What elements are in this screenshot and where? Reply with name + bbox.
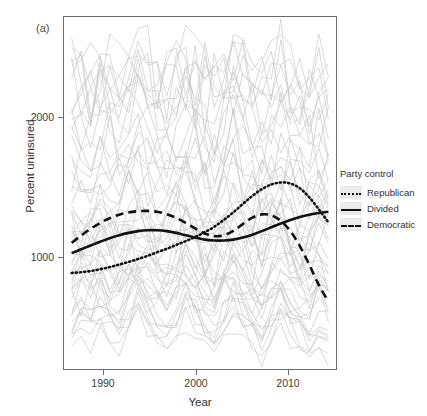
plot-area bbox=[63, 16, 337, 370]
legend-item-divided[interactable]: Divided bbox=[340, 201, 427, 216]
legend-label-democratic: Democratic bbox=[367, 219, 415, 230]
legend-item-republican[interactable]: Republican bbox=[340, 185, 427, 200]
legend-key-republican bbox=[340, 186, 362, 199]
xtick-label-2010: 2010 bbox=[258, 377, 318, 389]
panel-label: (a) bbox=[36, 22, 49, 34]
background-series-line bbox=[72, 19, 329, 120]
legend: Party control Republican Divided Democra… bbox=[340, 168, 427, 233]
xtick-mark-2000 bbox=[196, 370, 197, 375]
plot-canvas bbox=[64, 17, 336, 369]
legend-item-democratic[interactable]: Democratic bbox=[340, 217, 427, 232]
background-series-line bbox=[72, 276, 329, 341]
xtick-label-2000: 2000 bbox=[166, 377, 226, 389]
xtick-label-1990: 1990 bbox=[73, 377, 133, 389]
legend-title: Party control bbox=[340, 168, 427, 179]
xtick-mark-2010 bbox=[288, 370, 289, 375]
xtick-mark-1990 bbox=[103, 370, 104, 375]
y-axis-title: Percent uninsured bbox=[24, 96, 36, 236]
ytick-mark-1000 bbox=[58, 257, 63, 258]
legend-label-republican: Republican bbox=[367, 187, 415, 198]
x-axis-title: Year bbox=[63, 396, 337, 408]
legend-label-divided: Divided bbox=[367, 203, 399, 214]
legend-key-divided bbox=[340, 202, 362, 215]
legend-key-democratic bbox=[340, 218, 362, 231]
ytick-label-1000: 1000 bbox=[10, 251, 54, 263]
ytick-mark-2000 bbox=[58, 117, 63, 118]
chart-figure: (a) 2000 1000 1990 2000 2010 Percent uni… bbox=[0, 0, 427, 416]
background-series-line bbox=[72, 279, 329, 338]
